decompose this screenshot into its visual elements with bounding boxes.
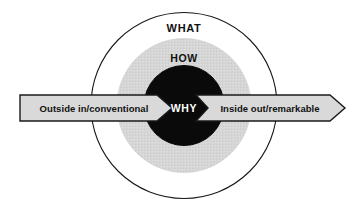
arrow-left-outside-in[interactable] — [20, 95, 172, 121]
diagram-canvas: WHAT HOW WHY Outside in/conventional Ins… — [0, 0, 361, 214]
golden-circle-diagram: WHAT HOW WHY Outside in/conventional Ins… — [0, 0, 361, 214]
arrow-right-inside-out[interactable] — [196, 95, 345, 121]
golden-circle-svg — [0, 0, 361, 214]
